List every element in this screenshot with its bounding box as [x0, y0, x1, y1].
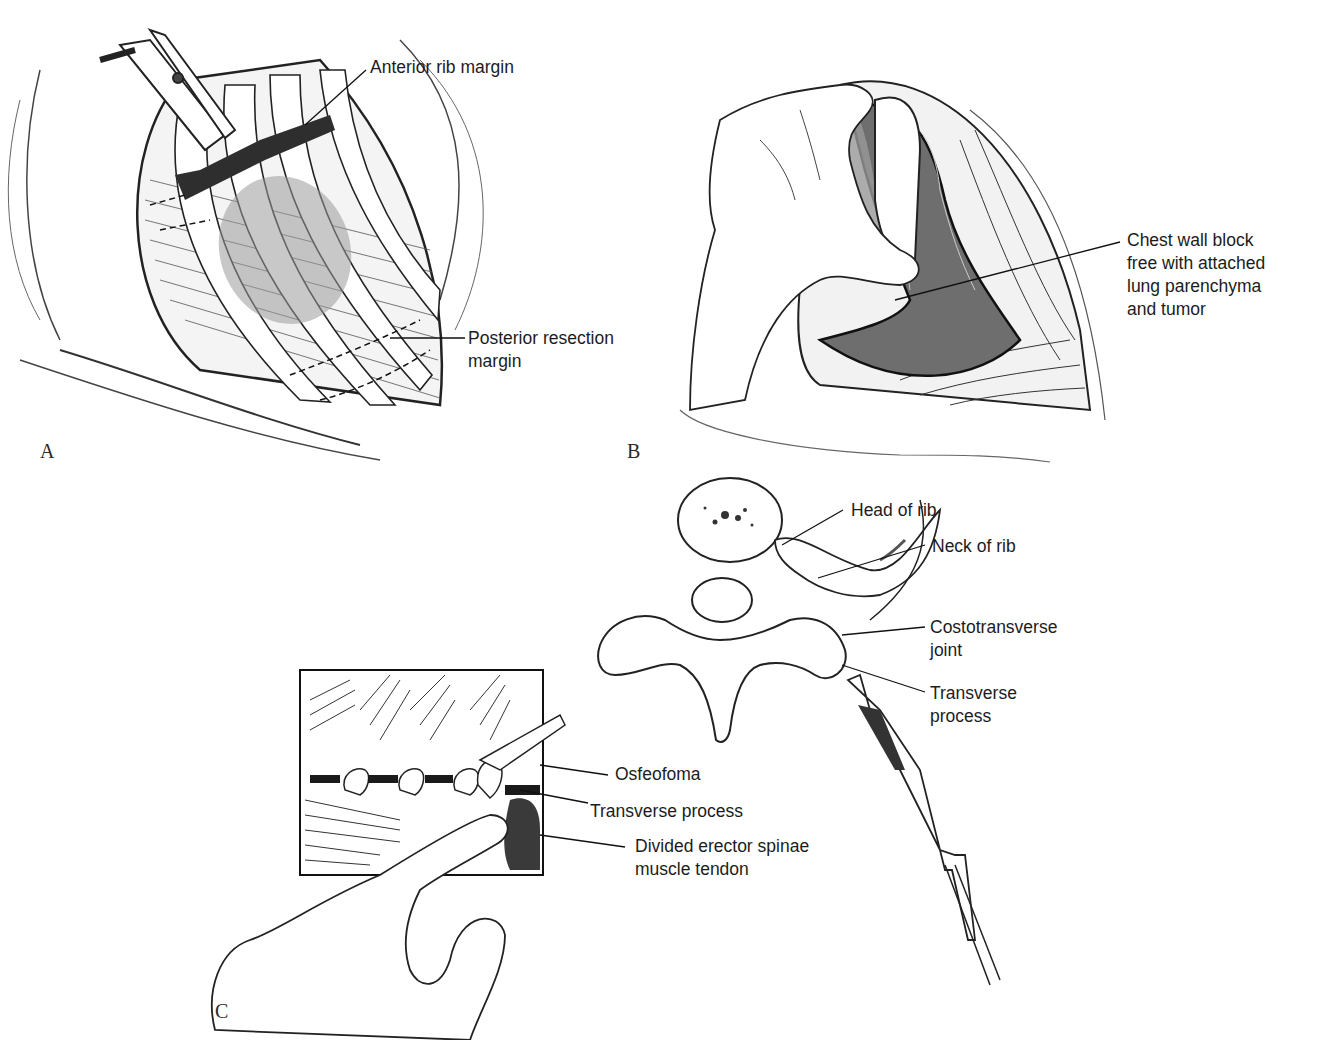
label-neck-of-rib: Neck of rib: [932, 535, 1016, 558]
label-head-of-rib: Head of rib: [851, 499, 937, 522]
panel-b: Chest wall block free with attached lung…: [0, 0, 1325, 470]
panel-c-illustration: [0, 470, 1325, 1040]
panel-c: Head of rib Neck of rib Costotransverse …: [0, 470, 1325, 1040]
panel-letter-c: C: [215, 1000, 228, 1023]
label-chest-wall-block: Chest wall block free with attached lung…: [1127, 229, 1265, 321]
label-osteoma: Osfeofoma: [615, 763, 701, 786]
label-transverse-process-inset: Transverse process: [590, 800, 743, 823]
label-transverse-process-vertebra: Transverse process: [930, 682, 1017, 728]
label-costotransverse-joint: Costotransverse joint: [930, 616, 1057, 662]
label-divided-erector-spinae: Divided erector spinae muscle tendon: [635, 835, 809, 881]
panel-letter-b: B: [627, 440, 640, 463]
